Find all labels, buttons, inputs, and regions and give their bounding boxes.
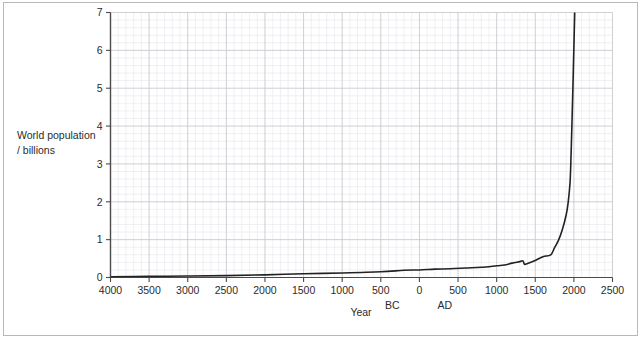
x-tick-labels: 4000350030002500200015001000500050010001… <box>99 284 625 296</box>
y-tick-labels: 01234567 <box>97 6 103 283</box>
x-axis-title: Year <box>350 306 372 318</box>
y-axis-title-line2: / billions <box>17 144 55 156</box>
x-tick-label: 1500 <box>524 284 548 296</box>
chart-canvas: 4000350030002500200015001000500050010001… <box>0 0 642 340</box>
population-chart-figure: 4000350030002500200015001000500050010001… <box>0 0 642 340</box>
x-tick-label: 3500 <box>137 284 161 296</box>
y-tick-label: 7 <box>97 6 103 18</box>
minor-gridlines <box>111 13 613 278</box>
x-tick-label: 1500 <box>292 284 316 296</box>
x-tick-label: 1000 <box>485 284 509 296</box>
y-tick-label: 2 <box>97 196 103 208</box>
era-label-ad: AD <box>438 299 453 311</box>
era-label-bc: BC <box>385 299 400 311</box>
x-tick-label: 500 <box>372 284 390 296</box>
y-tick-label: 0 <box>97 271 103 283</box>
axis-spines <box>111 13 613 278</box>
y-tick-label: 6 <box>97 44 103 56</box>
y-tick-label: 1 <box>97 233 103 245</box>
x-tick-label: 2500 <box>215 284 239 296</box>
x-tick-label: 2000 <box>253 284 277 296</box>
x-tick-label: 500 <box>449 284 467 296</box>
y-tick-label: 3 <box>97 158 103 170</box>
x-tick-label: 2000 <box>562 284 586 296</box>
axis-ticks <box>106 13 613 283</box>
y-axis-title-line1: World population <box>17 129 96 141</box>
x-tick-label: 0 <box>417 284 423 296</box>
y-tick-label: 5 <box>97 82 103 94</box>
x-tick-label: 3000 <box>176 284 200 296</box>
y-tick-label: 4 <box>97 120 103 132</box>
x-tick-label: 1000 <box>331 284 355 296</box>
x-tick-label: 2500 <box>601 284 625 296</box>
major-gridlines <box>111 13 613 278</box>
x-tick-label: 4000 <box>99 284 123 296</box>
era-labels: BCAD <box>385 299 453 311</box>
